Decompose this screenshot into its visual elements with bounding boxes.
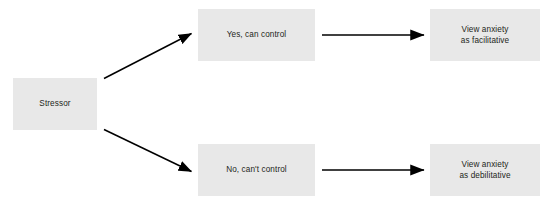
edge-stressor-to-no-control <box>104 130 192 172</box>
node-no-cant-control[interactable]: No, can't control <box>198 144 315 196</box>
node-yes-can-control[interactable]: Yes, can control <box>198 9 315 61</box>
node-view-anxiety-as-debilitative[interactable]: View anxiety as debilitative <box>430 144 540 196</box>
node-view-anxiety-as-facilitative[interactable]: View anxiety as facilitative <box>430 9 540 61</box>
flowchart-diagram: Stressor Yes, can control No, can't cont… <box>0 0 548 211</box>
edge-stressor-to-yes-control <box>104 34 192 79</box>
node-stressor[interactable]: Stressor <box>13 78 97 130</box>
